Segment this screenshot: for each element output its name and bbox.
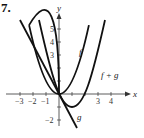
y-axis-label: y bbox=[56, 3, 61, 13]
y-tick-label: 5 bbox=[50, 25, 54, 34]
x-tick-label: −3 bbox=[15, 97, 24, 106]
y-tick-label: 4 bbox=[50, 38, 54, 47]
y-tick-label: −2 bbox=[45, 116, 54, 125]
x-tick-label: 3 bbox=[96, 97, 100, 106]
label-f-plus-g: f + g bbox=[101, 70, 119, 80]
y-axis-arrow-icon bbox=[57, 13, 62, 19]
x-tick-label: −2 bbox=[28, 97, 37, 106]
x-tick-label: −1 bbox=[41, 97, 50, 106]
label-g: g bbox=[77, 112, 82, 122]
x-tick-label: 4 bbox=[109, 97, 113, 106]
curve-g bbox=[20, 20, 77, 128]
y-tick-label: 3 bbox=[50, 51, 54, 60]
x-axis-label: x bbox=[132, 89, 137, 99]
function-graph: −3 −2 −1 3 4 5 4 3 −2 x y f f + g g bbox=[0, 0, 144, 138]
x-axis-arrow-icon bbox=[125, 92, 131, 97]
